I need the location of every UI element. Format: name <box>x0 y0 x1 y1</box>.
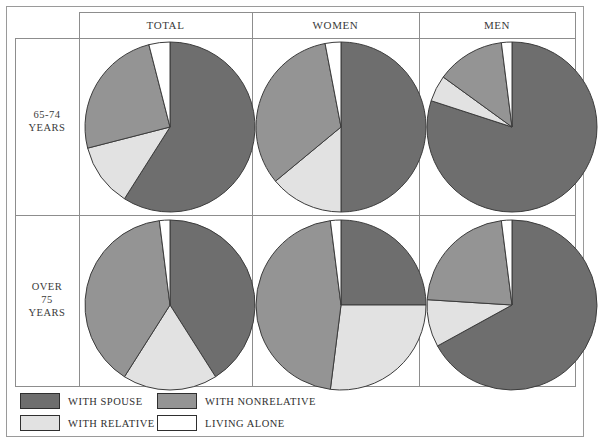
pie-chart-total-over-75 <box>83 218 257 392</box>
pie-matrix: TOTAL WOMEN MEN 65-74 YEARS OVER 75 YEAR… <box>15 12 576 387</box>
legend-swatch-living-alone <box>157 415 197 431</box>
grid-line-header-bottom <box>15 38 576 39</box>
pie-chart-women-65-74 <box>254 40 428 214</box>
column-header-women: WOMEN <box>252 12 419 38</box>
row-label-over-75-line-1: OVER <box>15 280 79 293</box>
pie-slice-with-spouse <box>341 42 426 212</box>
row-label-over-75-line-3: YEARS <box>15 306 79 319</box>
legend-swatch-with-nonrelative <box>157 393 197 409</box>
column-header-men: MEN <box>419 12 575 38</box>
legend-label-with-relative: WITH RELATIVE <box>68 416 155 431</box>
pie-chart-men-over-75 <box>425 218 599 392</box>
pie-slice-with-spouse <box>341 220 426 305</box>
legend-label-living-alone: LIVING ALONE <box>205 416 285 431</box>
row-label-65-74-line-1: 65-74 <box>15 108 79 121</box>
legend-swatch-with-spouse <box>20 393 60 409</box>
pie-slice-with-relative <box>330 305 426 390</box>
pie-chart-men-65-74 <box>425 40 599 214</box>
pie-slice-with-nonrelative <box>427 221 512 305</box>
chart-figure: TOTAL WOMEN MEN 65-74 YEARS OVER 75 YEAR… <box>6 6 584 437</box>
legend: WITH SPOUSE WITH RELATIVE WITH NONRELATI… <box>15 393 576 433</box>
row-label-over-75-line-2: 75 <box>15 293 79 306</box>
grid-line-left-edge <box>15 38 16 387</box>
grid-line-row-divider <box>15 215 576 216</box>
column-header-total: TOTAL <box>79 12 252 38</box>
row-label-65-74: 65-74 YEARS <box>15 108 79 134</box>
legend-label-with-nonrelative: WITH NONRELATIVE <box>205 394 316 409</box>
pie-chart-total-65-74 <box>83 40 257 214</box>
legend-label-with-spouse: WITH SPOUSE <box>68 394 143 409</box>
row-label-65-74-line-2: YEARS <box>15 121 79 134</box>
pie-slice-with-nonrelative <box>256 221 341 390</box>
legend-swatch-with-relative <box>20 415 60 431</box>
pie-chart-women-over-75 <box>254 218 428 392</box>
row-label-over-75: OVER 75 YEARS <box>15 280 79 319</box>
grid-line-label-column <box>79 12 80 387</box>
